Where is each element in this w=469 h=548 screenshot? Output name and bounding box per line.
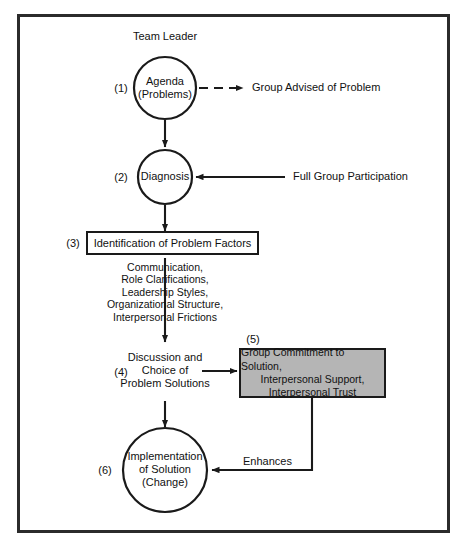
- node-1-line-2: (Problems): [138, 88, 192, 101]
- step-number-3: (3): [66, 237, 79, 249]
- node-2-line-1: Diagnosis: [141, 170, 189, 183]
- team-leader-label: Team Leader: [133, 30, 197, 43]
- node-5-line-1: Group Commitment to Solution,: [241, 346, 384, 373]
- node-2-text: Diagnosis: [141, 170, 189, 183]
- step-number-1: (1): [114, 82, 127, 94]
- factor-item-1: Communication,: [107, 261, 223, 273]
- factor-item-5: Interpersonal Frictions: [107, 311, 223, 323]
- node-6-line-2: of Solution: [127, 463, 202, 476]
- node-4-line-2: Choice of: [120, 364, 209, 377]
- group-advised-label: Group Advised of Problem: [252, 81, 380, 94]
- node-4-line-1: Discussion and: [120, 351, 209, 364]
- node-6-text: Implementation of Solution (Change): [127, 450, 202, 490]
- full-group-participation-label: Full Group Participation: [293, 170, 408, 183]
- node-6-line-3: (Change): [127, 477, 202, 490]
- factor-item-4: Organizational Structure,: [107, 298, 223, 310]
- step-number-5: (5): [246, 333, 259, 345]
- node-4-line-3: Problem Solutions: [120, 378, 209, 391]
- factor-item-2: Role Clarifications,: [107, 273, 223, 285]
- node-1-line-1: Agenda: [138, 75, 192, 88]
- node-4-text: Discussion and Choice of Problem Solutio…: [120, 351, 209, 391]
- node-6-line-1: Implementation: [127, 450, 202, 463]
- factor-item-3: Leadership Styles,: [107, 286, 223, 298]
- diagram-canvas: Team Leader (1) Agenda (Problems) Group …: [0, 0, 469, 548]
- node-5-line-3: Interpersonal Trust: [269, 386, 357, 399]
- step-number-2: (2): [114, 171, 127, 183]
- step-number-6: (6): [98, 464, 111, 476]
- node-1-text: Agenda (Problems): [138, 75, 192, 101]
- node-5-line-2: Interpersonal Support,: [261, 373, 365, 386]
- enhances-label: Enhances: [243, 455, 292, 468]
- connector-layer: [0, 0, 469, 548]
- node-3-box: Identification of Problem Factors: [86, 231, 259, 255]
- factor-list: Communication, Role Clarifications, Lead…: [107, 261, 223, 323]
- node-5-gray-box: Group Commitment to Solution, Interperso…: [239, 348, 386, 398]
- node-3-label: Identification of Problem Factors: [94, 237, 252, 249]
